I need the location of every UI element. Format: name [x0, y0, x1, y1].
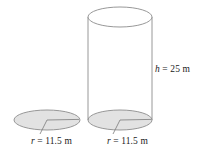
radius-label-right-value: 11.5 — [121, 136, 138, 146]
radius-label-left-value: 11.5 — [45, 136, 62, 146]
standalone-circle-group — [14, 110, 80, 134]
figure-drawing-canvas — [0, 0, 202, 157]
geometry-figure: h = 25 m r = 11.5 m r = 11.5 m — [0, 0, 202, 157]
height-label-unit: m — [182, 64, 190, 74]
cylinder-group — [88, 7, 152, 134]
height-label-value: 25 — [170, 64, 180, 74]
radius-label-left: r = 11.5 m — [31, 136, 72, 146]
height-label: h = 25 m — [155, 64, 190, 74]
radius-label-right-unit: m — [140, 136, 148, 146]
radius-label-left-unit: m — [64, 136, 72, 146]
radius-label-right: r = 11.5 m — [107, 136, 148, 146]
cylinder-top-face — [88, 7, 152, 27]
